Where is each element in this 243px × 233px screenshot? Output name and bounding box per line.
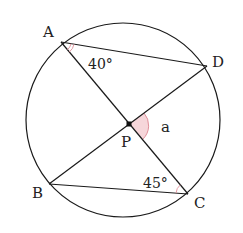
label-D: D — [212, 53, 224, 71]
geometry-diagram: A D P B C 40° 45° a — [0, 0, 243, 233]
angle-C-value: 45° — [143, 175, 168, 191]
diagram-canvas: A D P B C 40° 45° a — [0, 0, 243, 233]
angle-A-arc-inner — [67, 44, 71, 50]
angle-a-label: a — [161, 118, 170, 136]
point-P-marker — [127, 122, 132, 127]
angle-C-arc — [176, 185, 180, 193]
label-P: P — [121, 133, 131, 151]
angle-A-value: 40° — [88, 56, 113, 72]
label-B: B — [32, 184, 43, 202]
label-A: A — [42, 23, 54, 41]
label-C: C — [194, 194, 205, 212]
angle-A-arc-outer — [69, 44, 74, 52]
